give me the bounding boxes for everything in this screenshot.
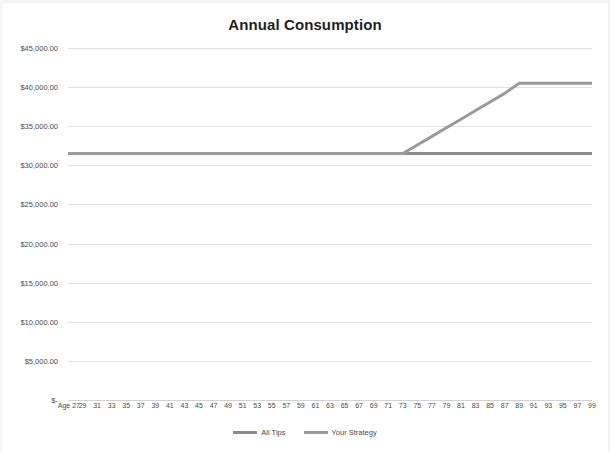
x-tick-label: 35 — [122, 402, 130, 409]
chart-title: Annual Consumption — [0, 16, 610, 33]
y-axis: $45,000.00$40,000.00$35,000.00$30,000.00… — [0, 0, 66, 452]
frame-top-edge — [0, 0, 610, 3]
x-tick-label: 89 — [515, 402, 523, 409]
x-tick-label: 99 — [588, 402, 596, 409]
legend-item-all-tips[interactable]: All Tips — [233, 428, 285, 437]
x-tick-label: 39 — [151, 402, 159, 409]
x-tick-label: 85 — [486, 402, 494, 409]
y-tick-label: $25,000.00 — [20, 200, 58, 209]
chart-legend: All TipsYour Strategy — [0, 428, 610, 437]
x-tick-label: 41 — [166, 402, 174, 409]
x-tick-label: 95 — [559, 402, 567, 409]
x-tick-label: 61 — [312, 402, 320, 409]
x-tick-label: 69 — [370, 402, 378, 409]
x-tick-label: 87 — [501, 402, 509, 409]
x-tick-label: 59 — [297, 402, 305, 409]
y-tick-label: $35,000.00 — [20, 122, 58, 131]
legend-label: All Tips — [261, 428, 285, 437]
x-tick-label: 51 — [239, 402, 247, 409]
legend-swatch — [304, 431, 328, 434]
x-tick-label: 91 — [530, 402, 538, 409]
y-tick-label: $40,000.00 — [20, 83, 58, 92]
x-tick-label: 29 — [79, 402, 87, 409]
x-tick-label: 63 — [326, 402, 334, 409]
y-tick-label: $5,000.00 — [25, 356, 58, 365]
legend-swatch — [233, 431, 257, 434]
chart-container: Annual Consumption $45,000.00$40,000.00$… — [0, 0, 610, 452]
x-tick-label: 71 — [384, 402, 392, 409]
x-tick-label: 47 — [210, 402, 218, 409]
x-tick-label: 75 — [413, 402, 421, 409]
x-tick-label: 93 — [544, 402, 552, 409]
x-tick-label: 37 — [137, 402, 145, 409]
x-tick-label: 65 — [341, 402, 349, 409]
x-tick-label: 57 — [282, 402, 290, 409]
x-tick-label: 67 — [355, 402, 363, 409]
x-tick-label: 49 — [224, 402, 232, 409]
y-tick-label: $10,000.00 — [20, 317, 58, 326]
x-tick-label: 79 — [443, 402, 451, 409]
y-tick-label: $20,000.00 — [20, 239, 58, 248]
x-tick-label: 31 — [93, 402, 101, 409]
y-tick-label: $30,000.00 — [20, 161, 58, 170]
legend-item-your-strategy[interactable]: Your Strategy — [304, 428, 377, 437]
x-tick-label: Age 27 — [58, 402, 80, 409]
x-tick-label: 55 — [268, 402, 276, 409]
x-tick-label: 81 — [457, 402, 465, 409]
x-tick-label: 97 — [574, 402, 582, 409]
series-line-your-strategy — [68, 83, 592, 153]
y-tick-label: $15,000.00 — [20, 278, 58, 287]
x-tick-label: 33 — [108, 402, 116, 409]
x-tick-label: 83 — [472, 402, 480, 409]
legend-label: Your Strategy — [332, 428, 377, 437]
y-tick-label: $45,000.00 — [20, 44, 58, 53]
x-tick-label: 77 — [428, 402, 436, 409]
x-tick-label: 43 — [181, 402, 189, 409]
x-tick-label: 53 — [253, 402, 261, 409]
x-tick-label: 45 — [195, 402, 203, 409]
x-tick-label: 73 — [399, 402, 407, 409]
plot-area — [68, 48, 592, 400]
series-layer — [68, 48, 592, 400]
gridline — [68, 400, 592, 401]
x-axis: Age 272931333537394143454749515355575961… — [68, 402, 592, 418]
